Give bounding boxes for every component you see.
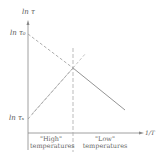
y-axis-arrow-icon [27, 20, 30, 25]
region-low-temperatures: "Low" temperatures [82, 136, 128, 151]
region-high-temperatures: "High" temperatures [30, 136, 72, 151]
x-axis-label: 1/T [145, 130, 155, 136]
y-tick-ln-tau0: ln τ₀ [10, 30, 26, 37]
diagram-canvas [0, 0, 160, 160]
region-high-subtitle: temperatures [30, 143, 72, 150]
region-low-subtitle: temperatures [82, 143, 128, 150]
solid-line-high-temp [32, 68, 73, 114]
dashed-line-extension [73, 53, 86, 68]
y-tick-ln-taus: ln τₛ [9, 115, 24, 122]
y-axis-label: ln τ [22, 9, 35, 16]
dashed-line-descending [28, 34, 73, 68]
x-axis-arrow-icon [139, 132, 144, 135]
solid-line-low-temp [73, 68, 125, 110]
